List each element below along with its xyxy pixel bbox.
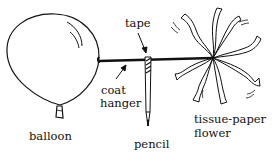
tape-label: tape (125, 17, 151, 30)
balloon-label: balloon (29, 130, 72, 143)
tissue-paper-flower-label-line1: tissue-paper (194, 113, 266, 126)
tissue-paper-flower-label-line2: flower (194, 127, 231, 140)
pencil-label: pencil (134, 138, 169, 151)
coat-hanger-wire (98, 57, 213, 62)
balloon-drawing (7, 14, 99, 118)
coat-hanger-label-line2: hanger (100, 97, 141, 110)
pencil-drawing (145, 57, 151, 126)
coat-hanger-arrow (116, 65, 126, 79)
petal (171, 8, 261, 104)
tissue-paper-flower-drawing (171, 8, 261, 104)
tape-arrow (138, 33, 147, 53)
